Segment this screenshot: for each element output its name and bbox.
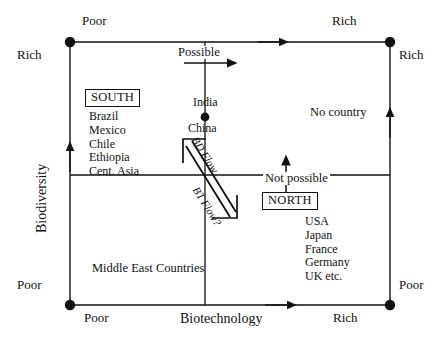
group-box-north: NORTH bbox=[262, 192, 318, 210]
diagram-graphics bbox=[0, 0, 446, 350]
corner-label-bottom-right-below: Rich bbox=[333, 311, 358, 325]
corner-dot-bottom-left bbox=[65, 300, 75, 310]
region-label-no-country: No country bbox=[310, 106, 367, 119]
corner-label-bottom-left-below: Poor bbox=[84, 311, 109, 325]
corner-dot-top-right bbox=[385, 37, 395, 47]
y-axis-title: Biodiversity bbox=[35, 164, 50, 233]
point-label-india: India bbox=[193, 96, 218, 108]
corner-label-top-right-above: Rich bbox=[332, 14, 357, 28]
country-list-south: Brazil Mexico Chile Ethiopia Cent. Asia bbox=[89, 110, 139, 179]
region-label-not-possible: Not possible bbox=[263, 172, 330, 185]
corner-label-top-left-above: Poor bbox=[82, 14, 107, 28]
corner-dot-top-left bbox=[65, 37, 75, 47]
corner-label-bottom-right-side: Poor bbox=[399, 278, 424, 292]
group-box-south: SOUTH bbox=[85, 89, 140, 107]
point-label-china: China bbox=[188, 122, 217, 134]
corner-dot-bottom-right bbox=[385, 300, 395, 310]
corner-label-bottom-left-side: Poor bbox=[17, 278, 42, 292]
corner-label-top-left-side: Rich bbox=[17, 48, 42, 62]
diagram-canvas: Poor Rich Rich Rich Poor Poor Poor Rich … bbox=[0, 0, 446, 350]
corner-label-top-right-side: Rich bbox=[399, 48, 424, 62]
region-label-possible: Possible bbox=[176, 46, 222, 59]
country-list-north: USA Japan France Germany UK etc. bbox=[305, 215, 350, 284]
x-axis-title: Biotechnology bbox=[180, 312, 262, 327]
region-label-middle-east: Middle East Countries bbox=[92, 262, 205, 275]
